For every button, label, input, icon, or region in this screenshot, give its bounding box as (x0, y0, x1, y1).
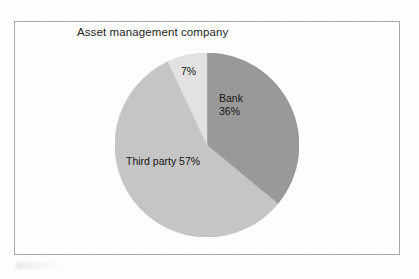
pie-chart (115, 53, 299, 237)
pie-label-third-party: Third party 57% (126, 155, 200, 168)
chart-title: Asset management company (77, 26, 228, 38)
pie-chart-svg (115, 53, 299, 237)
pie-label-bank-percent: 36% (219, 105, 243, 118)
pie-label-other-percent: 7% (181, 65, 196, 78)
pie-label-bank: Bank 36% (219, 92, 243, 118)
pie-label-bank-name: Bank (219, 92, 243, 105)
